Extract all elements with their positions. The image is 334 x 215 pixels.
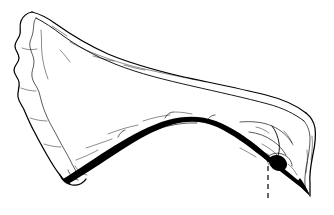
drawing-background bbox=[0, 0, 334, 215]
line-drawing-canvas bbox=[0, 0, 334, 215]
figure-container: Archaeological line drawing of a bone im… bbox=[0, 0, 334, 215]
